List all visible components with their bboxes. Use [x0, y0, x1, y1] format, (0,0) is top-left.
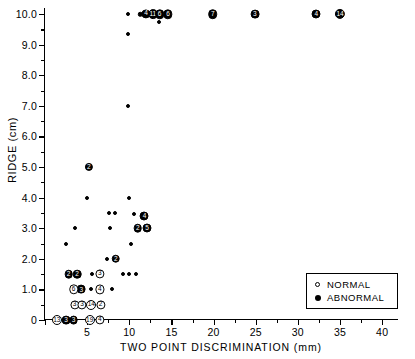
- data-point-normal: 13: [52, 315, 62, 325]
- data-point-abnormal: [113, 211, 117, 215]
- data-point-count: 3: [64, 317, 68, 324]
- x-tick-minor: [235, 319, 236, 323]
- data-point-abnormal: 5: [142, 224, 151, 233]
- data-point-abnormal: [105, 257, 109, 261]
- data-point-count: 2: [75, 271, 79, 278]
- y-tick-minor: [41, 182, 45, 183]
- data-point-normal: 6: [69, 285, 78, 294]
- x-tick-minor: [108, 319, 109, 323]
- data-point-abnormal: 2: [133, 224, 142, 233]
- data-point-abnormal: 3: [69, 316, 78, 325]
- x-tick-label: 20: [208, 326, 220, 338]
- legend: NORMAL ABNORMAL: [306, 273, 398, 309]
- y-tick-label: 7.0: [22, 100, 37, 112]
- x-axis-title: TWO POINT DISCRIMINATION (mm): [44, 341, 398, 353]
- data-point-count: 4: [98, 286, 102, 293]
- legend-item-abnormal: ABNORMAL: [312, 291, 391, 304]
- data-point-abnormal: [73, 226, 77, 230]
- x-tick-label: 5: [84, 326, 90, 338]
- data-point-count: 3: [72, 317, 76, 324]
- y-tick-minor: [41, 152, 45, 153]
- y-tick-major: [39, 259, 45, 260]
- data-point-abnormal: [90, 272, 94, 276]
- data-point-abnormal: 2: [73, 270, 82, 279]
- data-point-normal: 14: [86, 300, 96, 310]
- data-point-abnormal: 4: [312, 10, 321, 19]
- data-point-count: 2: [87, 164, 91, 171]
- x-tick-label: 35: [334, 326, 346, 338]
- y-tick-label: 0: [31, 314, 37, 326]
- data-point-count: 3: [79, 286, 83, 293]
- data-point-abnormal: 2: [112, 255, 121, 264]
- y-tick-minor: [41, 244, 45, 245]
- data-point-count: 13: [53, 317, 60, 324]
- data-point-abnormal: [107, 211, 111, 215]
- data-point-normal: 4: [95, 285, 104, 294]
- x-tick-label: 25: [250, 326, 262, 338]
- y-tick-label: 1.0: [22, 283, 37, 295]
- x-tick-label: 40: [376, 326, 388, 338]
- data-point-abnormal: [132, 212, 136, 216]
- data-point-abnormal: [126, 12, 130, 16]
- data-point-count: 14: [88, 301, 95, 308]
- filled-circle-icon: [312, 295, 323, 301]
- data-point-abnormal: 3: [250, 10, 259, 19]
- data-point-normal: 3: [95, 270, 104, 279]
- data-point-count: 3: [98, 271, 102, 278]
- data-point-abnormal: [64, 242, 68, 246]
- data-point-abnormal: 2: [85, 163, 93, 171]
- y-tick-label: 6.0: [22, 130, 37, 142]
- data-point-abnormal: 6: [163, 9, 172, 18]
- data-point-normal: 4: [95, 315, 104, 324]
- data-point-abnormal: [85, 196, 89, 200]
- data-point-abnormal: [157, 20, 161, 24]
- data-point-count: 6: [72, 286, 76, 293]
- y-tick-major: [39, 45, 45, 46]
- y-tick-major: [39, 75, 45, 76]
- data-point-abnormal: [126, 32, 130, 36]
- y-tick-major: [39, 289, 45, 290]
- legend-item-normal: NORMAL: [312, 278, 391, 291]
- data-point-abnormal: [127, 196, 131, 200]
- x-tick-minor: [193, 319, 194, 323]
- x-tick-major: [214, 319, 215, 325]
- y-tick-label: 2.0: [22, 253, 37, 265]
- data-point-count: 6: [158, 11, 162, 18]
- y-tick-minor: [41, 274, 45, 275]
- x-tick-major: [256, 319, 257, 325]
- data-point-abnormal: [89, 287, 93, 291]
- data-point-count: 4: [315, 11, 319, 18]
- y-tick-major: [39, 167, 45, 168]
- data-point-normal: 19: [85, 315, 95, 325]
- x-tick-major: [382, 319, 383, 325]
- x-tick-minor: [361, 319, 362, 323]
- open-circle-icon: [312, 282, 323, 287]
- data-point-abnormal: 14: [335, 9, 345, 19]
- data-point-count: 19: [86, 317, 93, 324]
- y-tick-minor: [41, 305, 45, 306]
- data-point-count: 3: [80, 301, 84, 308]
- x-tick-label: 10: [123, 326, 135, 338]
- y-tick-minor: [41, 60, 45, 61]
- data-point-count: 4: [98, 317, 102, 324]
- data-point-count: 4: [143, 213, 147, 220]
- data-point-count: 7: [211, 11, 215, 18]
- data-point-count: 6: [166, 11, 170, 18]
- data-point-count: 3: [73, 301, 77, 308]
- x-tick-major: [340, 319, 341, 325]
- data-point-abnormal: [129, 242, 133, 246]
- data-point-normal: 3: [77, 300, 86, 309]
- data-point-abnormal: 3: [77, 285, 86, 294]
- data-point-count: 14: [336, 11, 343, 18]
- y-tick-minor: [41, 29, 45, 30]
- data-point-count: 2: [114, 256, 118, 263]
- x-tick-minor: [150, 319, 151, 323]
- x-tick-minor: [319, 319, 320, 323]
- x-tick-major: [171, 319, 172, 325]
- data-point-count: 2: [99, 301, 103, 308]
- data-point-abnormal: [127, 272, 131, 276]
- legend-label-normal: NORMAL: [327, 279, 371, 290]
- scatter-plot-figure: RIDGE (cm) 01.02.03.04.05.06.07.08.09.01…: [0, 0, 415, 359]
- data-point-abnormal: [126, 104, 130, 108]
- y-tick-label: 10.0: [16, 8, 37, 20]
